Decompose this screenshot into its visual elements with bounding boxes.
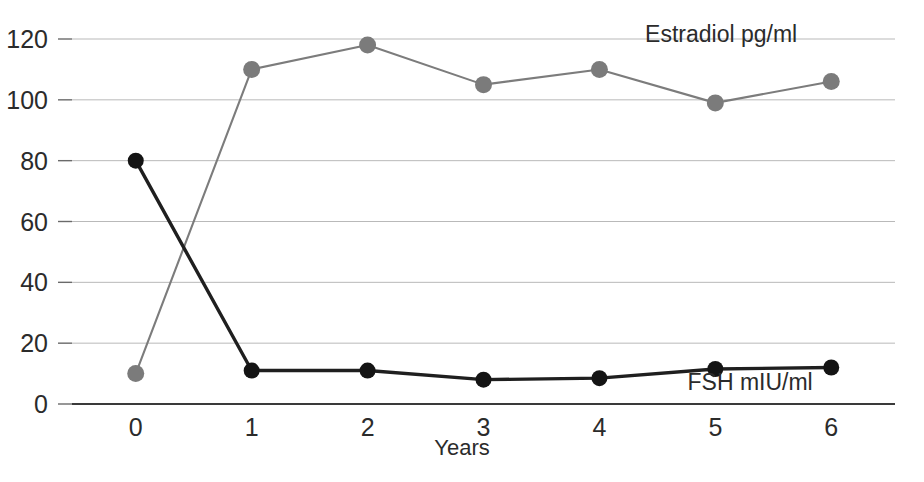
y-axis-tick-marks — [58, 39, 72, 404]
data-point-estradiol-year-5 — [707, 94, 724, 111]
data-point-estradiol-year-3 — [475, 76, 492, 93]
x-tick-label-4: 4 — [592, 413, 606, 441]
data-point-estradiol-year-1 — [243, 61, 260, 78]
data-point-fsh-year-2 — [360, 363, 376, 379]
y-tick-label-60: 60 — [20, 208, 48, 236]
x-tick-label-2: 2 — [361, 413, 375, 441]
y-tick-label-80: 80 — [20, 147, 48, 175]
y-tick-label-40: 40 — [20, 268, 48, 296]
series-markers-fsh — [128, 153, 840, 388]
x-tick-label-5: 5 — [708, 413, 722, 441]
chart-container: 020406080100120 0123456 Estradiol pg/ml … — [0, 0, 924, 482]
y-tick-label-100: 100 — [6, 86, 48, 114]
data-point-fsh-year-3 — [476, 372, 492, 388]
y-tick-label-0: 0 — [34, 390, 48, 418]
y-tick-label-120: 120 — [6, 25, 48, 53]
series-line-estradiol — [136, 45, 832, 374]
series-line-fsh — [136, 161, 832, 380]
x-axis-title: Years — [434, 435, 489, 460]
data-point-estradiol-year-4 — [591, 61, 608, 78]
data-point-fsh-year-1 — [244, 363, 260, 379]
x-tick-label-6: 6 — [824, 413, 838, 441]
series-label-fsh: FSH mIU/ml — [688, 369, 813, 395]
data-point-estradiol-year-0 — [127, 365, 144, 382]
y-axis-tick-labels: 020406080100120 — [6, 25, 48, 418]
data-point-estradiol-year-6 — [823, 73, 840, 90]
series-label-estradiol: Estradiol pg/ml — [645, 21, 797, 47]
data-point-estradiol-year-2 — [359, 37, 376, 54]
data-point-fsh-year-0 — [128, 153, 144, 169]
data-point-fsh-year-4 — [591, 370, 607, 386]
series-markers-estradiol — [127, 37, 840, 383]
x-tick-label-1: 1 — [245, 413, 259, 441]
line-chart: 020406080100120 0123456 Estradiol pg/ml … — [0, 0, 924, 482]
data-point-fsh-year-6 — [823, 360, 839, 376]
y-tick-label-20: 20 — [20, 329, 48, 357]
x-tick-label-0: 0 — [129, 413, 143, 441]
